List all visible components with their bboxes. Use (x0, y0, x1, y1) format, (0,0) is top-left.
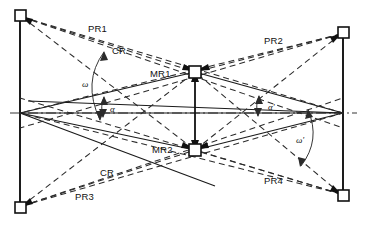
pr1-ray-b (22, 17, 195, 72)
label-pr1: PR1 (88, 23, 107, 34)
node-corner-bottom-left[interactable] (15, 202, 26, 213)
ray-geometry-figure: PR1 CR MR1 PR2 ω α α' ω' MR2 CR PR3 PR4 (0, 0, 365, 226)
node-mid-reflector-1[interactable] (189, 66, 201, 78)
omega-prime-arrow-top (305, 109, 313, 119)
node-corner-top-left[interactable] (15, 10, 26, 21)
alpha-arrow-top (100, 96, 108, 105)
label-omega: ω (82, 79, 88, 89)
label-alpha: α (110, 104, 115, 114)
pr2-ray-d (20, 34, 341, 128)
pr1-ray-a (22, 17, 343, 113)
pr3-ray-b (22, 150, 195, 206)
label-mr1: MR1 (150, 68, 171, 79)
solid-chord-upper (28, 101, 343, 113)
node-mid-reflector-2[interactable] (189, 144, 201, 156)
pr2-ray-a (20, 34, 341, 113)
main-ray-mr2-to-right (195, 113, 343, 150)
label-pr2: PR2 (264, 35, 283, 46)
label-cr-top: CR (112, 45, 126, 56)
label-alpha-prime: α' (268, 102, 276, 112)
node-corner-top-right[interactable] (338, 27, 349, 38)
label-pr3: PR3 (75, 191, 94, 202)
label-pr4: PR4 (264, 175, 283, 186)
pr3-ray-d (22, 98, 343, 206)
label-omega-prime: ω' (296, 135, 305, 145)
diagram-canvas: PR1 CR MR1 PR2 ω α α' ω' MR2 CR PR3 PR4 (0, 0, 365, 226)
pr4-ray-d (20, 98, 341, 194)
node-corner-bottom-right[interactable] (338, 190, 349, 201)
label-mr2: MR2 (152, 144, 173, 155)
pr3-ray-a (22, 113, 343, 206)
label-cr-bottom: CR (100, 167, 114, 178)
pr1-ray-c (22, 17, 195, 150)
omega-prime-arrow-bottom (298, 157, 306, 167)
